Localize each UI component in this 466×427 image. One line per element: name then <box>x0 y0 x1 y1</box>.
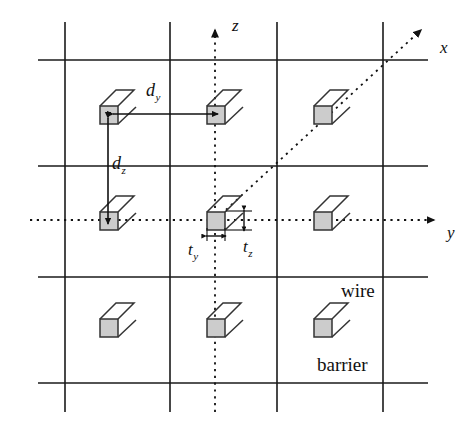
wire-edge-top <box>100 90 134 106</box>
dimension-arrows <box>108 114 252 241</box>
wire-edge-lower <box>225 320 243 337</box>
wire-array <box>100 90 350 337</box>
dimension-label-dz: dz <box>112 153 127 176</box>
wire-r2-c0 <box>100 303 136 337</box>
dy-subscript: y <box>155 91 161 103</box>
wire-edge-top <box>100 196 134 212</box>
wire-edge-lower <box>332 213 350 230</box>
dz-base: d <box>112 153 122 173</box>
wire-body <box>207 106 225 124</box>
wire-edge-top <box>207 303 241 319</box>
dimension-label-ty: ty <box>188 240 198 262</box>
barrier-grid <box>38 22 428 412</box>
axis-label-z: z <box>231 16 239 35</box>
wire-edge-top <box>207 90 241 106</box>
dz-subscript: z <box>121 164 127 176</box>
wire-body <box>314 106 332 124</box>
wire-body <box>100 212 118 230</box>
wire-array-diagram: z y x dy dz ty tz wire barrier <box>0 0 466 427</box>
wire-edge-top <box>314 90 348 106</box>
annotation-wire: wire <box>341 280 375 301</box>
wire-edge-lower <box>118 320 136 337</box>
dy-base: d <box>146 80 156 100</box>
ty-subscript: y <box>192 250 198 262</box>
wire-r2-c1 <box>207 303 243 337</box>
axis-labels: z y x <box>231 16 455 242</box>
wire-edge-lower <box>118 213 136 230</box>
wire-body <box>314 319 332 337</box>
wire-body <box>207 319 225 337</box>
wire-edge-lower <box>118 107 136 124</box>
wire-edge-lower <box>225 107 243 124</box>
dimension-label-dy: dy <box>146 80 161 103</box>
wire-r0-c0 <box>100 90 136 124</box>
dimension-labels: dy dz ty tz <box>112 80 253 262</box>
wire-body <box>100 319 118 337</box>
wire-body <box>207 212 225 230</box>
coordinate-axes <box>30 30 434 412</box>
axis-label-y: y <box>445 223 455 242</box>
wire-body <box>100 106 118 124</box>
tz-subscript: z <box>247 247 253 259</box>
wire-edge-lower <box>332 107 350 124</box>
dimension-label-tz: tz <box>243 237 253 259</box>
axis-label-x: x <box>439 38 448 57</box>
wire-edge-lower <box>225 213 243 230</box>
diagram-canvas: z y x dy dz ty tz wire barrier <box>0 0 466 427</box>
wire-r2-c2 <box>314 303 350 337</box>
wire-r0-c2 <box>314 90 350 124</box>
wire-r1-c2 <box>314 196 350 230</box>
wire-edge-lower <box>332 320 350 337</box>
wire-r1-c1 <box>207 196 243 230</box>
wire-r0-c1 <box>207 90 243 124</box>
wire-body <box>314 212 332 230</box>
annotation-barrier: barrier <box>317 354 368 375</box>
wire-edge-top <box>207 196 241 212</box>
wire-edge-top <box>100 303 134 319</box>
wire-edge-top <box>314 196 348 212</box>
wire-r1-c0 <box>100 196 136 230</box>
wire-edge-top <box>314 303 348 319</box>
